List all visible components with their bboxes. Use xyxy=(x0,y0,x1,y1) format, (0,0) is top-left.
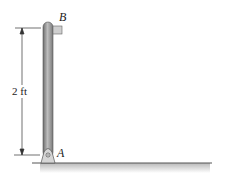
label-a: A xyxy=(57,146,64,161)
dimension-label: 2 ft xyxy=(12,85,27,97)
collar-b xyxy=(53,26,62,34)
label-b: B xyxy=(59,10,66,25)
diagram-canvas xyxy=(0,0,231,179)
rod xyxy=(43,22,53,157)
ground xyxy=(32,163,212,173)
